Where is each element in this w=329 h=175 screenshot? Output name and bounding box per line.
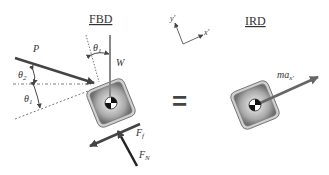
label-w: W [116, 57, 126, 68]
theta1-left-arc-icon [34, 86, 40, 108]
label-y-prime: y' [169, 14, 176, 23]
label-theta2: θ2 [18, 69, 27, 82]
label-theta1-left: θ1 [24, 93, 32, 106]
label-ff: Ff [135, 127, 145, 140]
label-ma: max' [277, 69, 294, 82]
theta2-arc-icon [33, 70, 35, 84]
label-p: P [32, 43, 39, 54]
equals-sign: = [172, 86, 187, 116]
ird-title: IRD [245, 14, 266, 28]
force-p-arrow [15, 58, 94, 83]
ird-center-of-mass-icon [249, 99, 261, 111]
normal-force-arrow [118, 131, 137, 166]
label-x-prime: x' [203, 28, 210, 37]
coordinate-axes-icon: y' x' [169, 14, 210, 44]
fbd-ird-diagram: FBD P W θ1 θ2 θ1 Ff [0, 0, 329, 175]
label-fn: FN [138, 149, 150, 162]
fbd-title: FBD [89, 12, 113, 26]
ird-group: IRD max' [229, 14, 318, 131]
label-theta1-top: θ1 [93, 42, 101, 55]
fbd-group: FBD P W θ1 θ2 θ1 Ff [13, 12, 150, 166]
friction-force-arrow [90, 124, 140, 146]
fbd-center-of-mass-icon [105, 97, 117, 109]
